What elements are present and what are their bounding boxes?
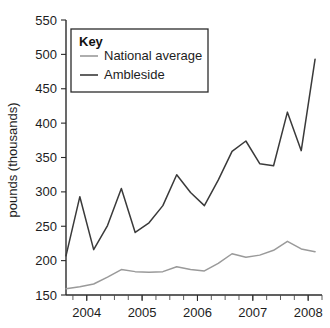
x-tick-label: 2007 [238,305,267,320]
y-tick-label: 500 [35,47,57,62]
x-tick-label: 2005 [128,305,157,320]
y-tick-label: 450 [35,81,57,96]
line-chart-figure: 150200250300350400450500550 pounds (thou… [0,0,330,328]
x-axis-tick-labels: 20042005200620072008 [72,305,322,320]
chart-canvas: 150200250300350400450500550 pounds (thou… [0,0,330,328]
x-axis-ticks [87,295,308,301]
y-tick-label: 150 [35,288,57,303]
y-axis-tick-labels: 150200250300350400450500550 [35,13,57,303]
y-tick-label: 300 [35,184,57,199]
x-axis-group: 20042005200620072008 [66,295,323,320]
y-tick-label: 400 [35,116,57,131]
chart-legend: Key National averageAmbleside [71,29,208,92]
y-axis-group: 150200250300350400450500550 pounds (thou… [5,13,66,303]
x-tick-label: 2004 [72,305,101,320]
legend-title: Key [79,34,104,49]
y-tick-label: 250 [35,219,57,234]
x-tick-label: 2008 [294,305,323,320]
y-axis-title: pounds (thousands) [5,103,20,218]
legend-label-1: Ambleside [104,67,165,82]
y-axis-ticks [61,20,66,295]
y-tick-label: 200 [35,253,57,268]
y-tick-label: 550 [35,13,57,28]
y-tick-label: 350 [35,150,57,165]
legend-label-0: National average [104,48,202,63]
x-tick-label: 2006 [183,305,212,320]
series-line-national-average [66,241,315,288]
data-series-group [66,59,315,289]
